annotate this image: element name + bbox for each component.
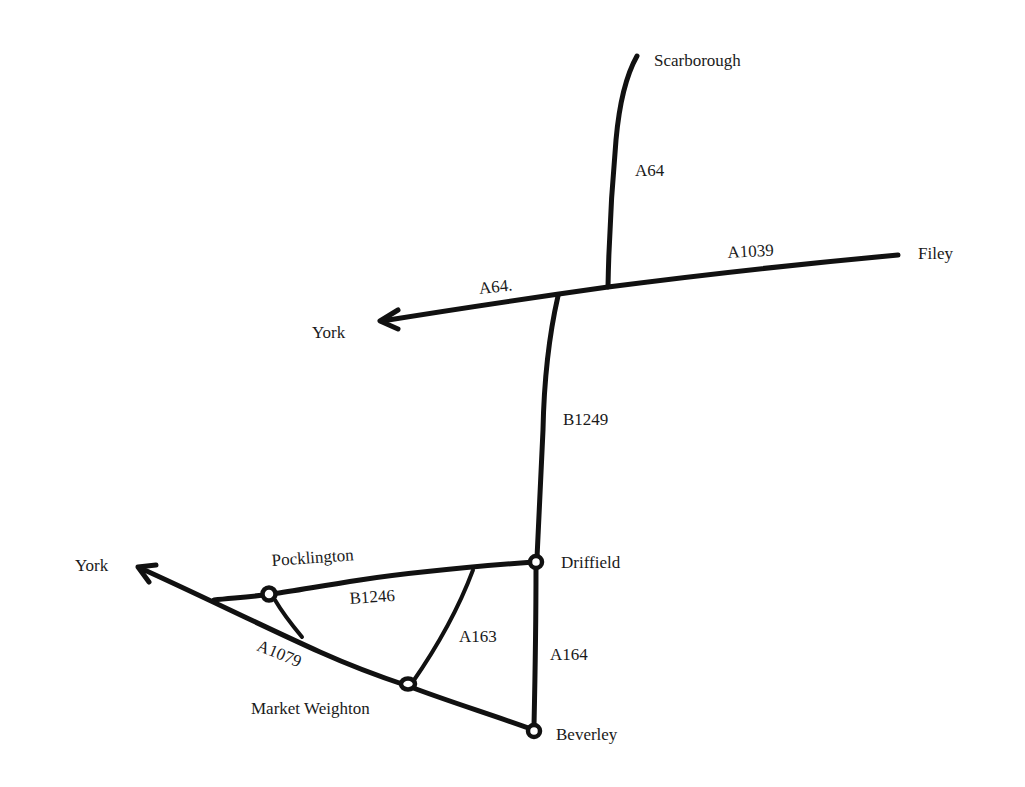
hollow-circle-icon [263,588,276,601]
road-label-a164: A164 [550,646,588,663]
place-label-beverley: Beverley [556,726,617,743]
road-label-a1039: A1039 [727,242,774,261]
place-label-york-north: York [312,324,345,341]
place-label-market-weighton: Market Weighton [251,700,370,717]
road-label-a64-north: A64 [635,162,664,179]
road-label-b1246: B1246 [349,587,395,607]
place-label-scarborough: Scarborough [654,52,741,69]
road-label-a163: A163 [459,628,497,645]
road-map: Scarborough Filey York York Pocklington … [0,0,1025,787]
road-a64-scarborough [608,56,637,287]
road-label-a64-west: A64. [478,276,513,296]
road-b1249 [537,296,558,558]
place-label-york-south: York [75,557,108,574]
road-a64-a1039 [382,255,898,321]
road-a164 [534,568,536,726]
hollow-circle-icon [401,679,415,690]
hollow-circle-icon [528,725,540,737]
place-label-driffield: Driffield [561,554,620,571]
place-label-filey: Filey [918,245,953,262]
hollow-circle-icon [530,556,542,568]
road-label-b1249: B1249 [563,411,608,428]
road-network [0,0,1025,787]
